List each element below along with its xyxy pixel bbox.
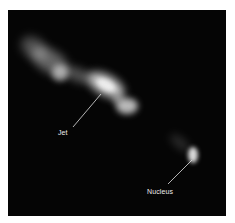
jet-label: Jet (58, 129, 68, 136)
astronomical-photo: Jet Nucleus (8, 10, 226, 216)
label-leader-lines (8, 10, 226, 216)
jet-leader-line (73, 94, 101, 127)
nucleus-label: Nucleus (147, 188, 173, 195)
nucleus-leader-line (168, 160, 192, 184)
